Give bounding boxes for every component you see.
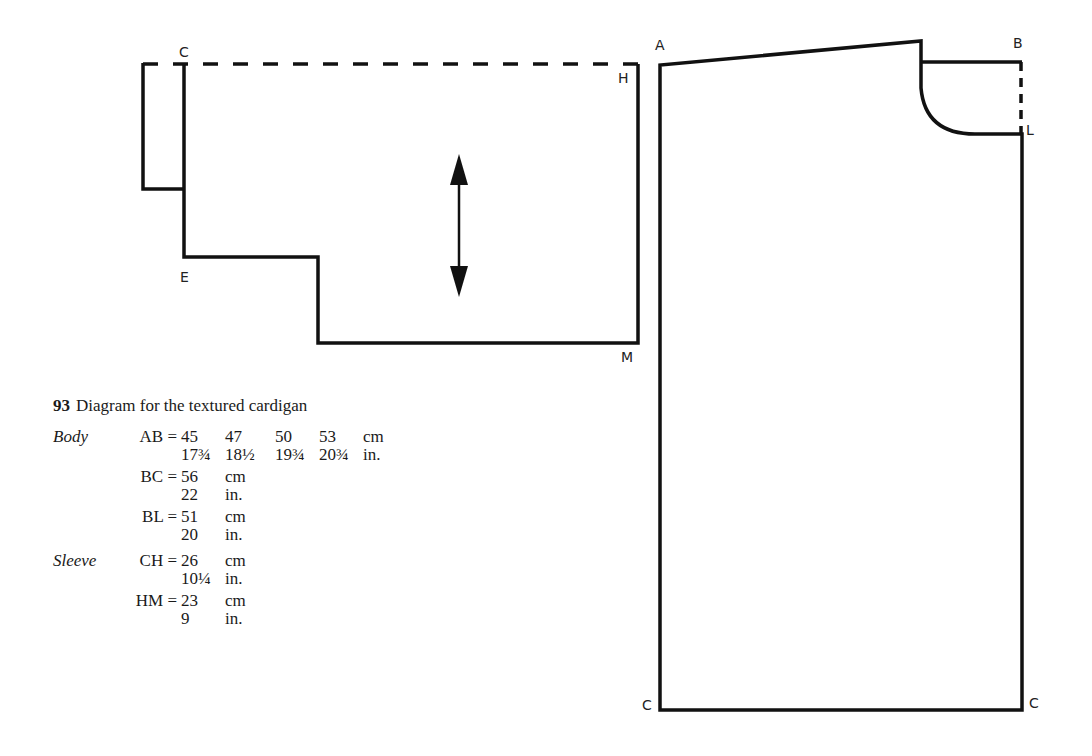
measurement-unit: in.	[225, 610, 275, 628]
measurement-value: 18½	[225, 446, 275, 464]
measurement-row-bc-in: 22 in.	[53, 486, 413, 504]
measurement-row-ch-in: 10¼ in.	[53, 570, 413, 588]
measurements-table: Body AB = 45 47 50 53 cm 17¾ 18½ 19¾ 20¾…	[53, 428, 413, 628]
figure-number: 93	[53, 396, 70, 415]
point-label-a: A	[655, 37, 665, 53]
measurement-unit: cm	[225, 508, 275, 526]
measurement-key: BC =	[115, 468, 181, 486]
measurement-value: 50	[275, 428, 319, 446]
measurement-value: 9	[181, 610, 225, 628]
measurement-unit: in.	[225, 570, 275, 588]
sleeve-outline	[184, 64, 638, 343]
part-label-sleeve: Sleeve	[53, 552, 115, 570]
measurement-row-ab-in: 17¾ 18½ 19¾ 20¾ in.	[53, 446, 413, 464]
body-outline	[660, 41, 1022, 710]
measurement-value: 23	[181, 592, 225, 610]
point-label-e: E	[180, 269, 189, 285]
point-label-b: B	[1013, 35, 1023, 51]
measurement-key: CH =	[115, 552, 181, 570]
point-label-m: M	[621, 349, 633, 365]
grain-line-arrow-icon	[450, 154, 468, 297]
measurement-value: 19¾	[275, 446, 319, 464]
measurement-row-bl-cm: BL = 51 cm	[53, 508, 413, 526]
measurement-unit: cm	[225, 552, 275, 570]
measurement-value: 22	[181, 486, 225, 504]
point-label-h: H	[618, 70, 629, 86]
body-pattern-piece	[660, 41, 1022, 710]
measurement-key: HM =	[115, 592, 181, 610]
measurement-value: 45	[181, 428, 225, 446]
measurement-row-bl-in: 20 in.	[53, 526, 413, 544]
measurement-value: 51	[181, 508, 225, 526]
measurement-unit: in.	[225, 486, 275, 504]
part-label-body: Body	[53, 428, 115, 446]
measurement-row-hm-cm: HM = 23 cm	[53, 592, 413, 610]
sleeve-pattern-piece	[143, 63, 638, 343]
sleeve-cuff-extension	[143, 63, 184, 189]
figure-caption: 93Diagram for the textured cardigan	[53, 396, 307, 416]
measurement-unit: cm	[225, 468, 275, 486]
measurement-unit: in.	[363, 446, 413, 464]
measurement-value: 47	[225, 428, 275, 446]
measurement-unit: cm	[225, 592, 275, 610]
measurement-key: AB =	[115, 428, 181, 446]
measurement-value: 17¾	[181, 446, 225, 464]
measurement-value: 26	[181, 552, 225, 570]
measurement-value: 53	[319, 428, 363, 446]
measurement-row-ch-cm: Sleeve CH = 26 cm	[53, 552, 413, 570]
measurement-row-ab-cm: Body AB = 45 47 50 53 cm	[53, 428, 413, 446]
point-label-l: L	[1026, 122, 1034, 138]
figure-title: Diagram for the textured cardigan	[76, 396, 307, 415]
measurement-row-hm-in: 9 in.	[53, 610, 413, 628]
measurement-unit: cm	[363, 428, 413, 446]
measurement-unit: in.	[225, 526, 275, 544]
measurement-value: 20¾	[319, 446, 363, 464]
measurement-row-bc-cm: BC = 56 cm	[53, 468, 413, 486]
point-label-c-body-right: C	[1029, 695, 1039, 711]
point-label-c-sleeve: C	[179, 44, 189, 60]
measurement-value: 56	[181, 468, 225, 486]
cardigan-pattern-diagram: C H E M A B L C C	[0, 0, 1092, 756]
measurement-value: 10¼	[181, 570, 225, 588]
measurement-value: 20	[181, 526, 225, 544]
measurement-key: BL =	[115, 508, 181, 526]
point-label-c-body-left: C	[642, 697, 652, 713]
